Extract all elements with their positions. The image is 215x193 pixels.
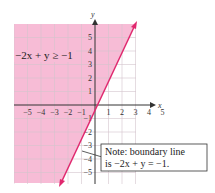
svg-text:5: 5 (161, 108, 165, 117)
svg-text:−5: −5 (83, 168, 92, 177)
svg-text:−4: −4 (83, 155, 92, 164)
svg-text:1: 1 (88, 87, 92, 96)
inequality-label: −2x + y ≥ −1 (15, 49, 73, 61)
svg-text:4: 4 (88, 47, 92, 56)
svg-text:1: 1 (107, 108, 111, 117)
svg-text:2: 2 (120, 108, 124, 117)
svg-text:−4: −4 (37, 108, 46, 117)
note-line-2: is −2x + y = −1. (105, 158, 169, 169)
svg-text:3: 3 (134, 108, 138, 117)
line-arrow-bottom-icon (59, 179, 65, 187)
svg-text:−3: −3 (83, 141, 92, 150)
note-line-1: Note: boundary line (105, 146, 186, 157)
y-axis-arrow-icon (92, 19, 98, 25)
svg-text:5: 5 (88, 33, 92, 42)
y-axis-label: y (90, 10, 95, 19)
svg-text:4: 4 (147, 108, 151, 117)
svg-text:−2: −2 (64, 108, 73, 117)
svg-text:3: 3 (88, 60, 92, 69)
svg-text:2: 2 (88, 74, 92, 83)
svg-text:−3: −3 (50, 108, 59, 117)
inequality-graph: x y −5−4−3−2−112345 54321−1−2−3−4−5 −2x … (0, 0, 215, 193)
svg-text:−5: −5 (23, 108, 32, 117)
